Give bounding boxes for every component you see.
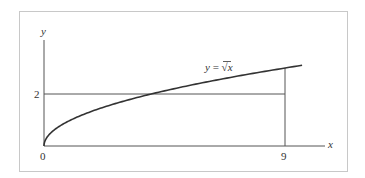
chart-frame: [20, 12, 348, 172]
chart: y x 2 0 9 y = √x: [0, 0, 365, 178]
x-tick-label-9: 9: [281, 150, 287, 162]
x-tick-label-0: 0: [40, 150, 46, 162]
y-tick-label-2: 2: [34, 88, 40, 100]
y-axis-label: y: [40, 25, 46, 37]
x-axis-label: x: [327, 138, 333, 150]
curve-label: y = √x: [204, 61, 233, 73]
sqrt-curve: [44, 65, 302, 146]
